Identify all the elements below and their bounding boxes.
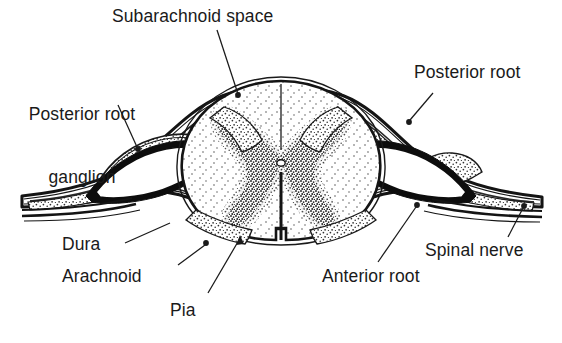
leader-posterior-root <box>406 93 433 125</box>
label-arachnoid: Arachnoid <box>62 266 142 287</box>
label-dura: Dura <box>62 234 100 255</box>
label-posterior-root-ganglion-line2: ganglion <box>8 167 156 188</box>
label-spinal-nerve: Spinal nerve <box>425 240 523 261</box>
label-anterior-root: Anterior root <box>322 266 420 287</box>
central-canal <box>277 160 285 166</box>
leader-subarachnoid-space <box>217 30 241 98</box>
label-subarachnoid-space: Subarachnoid space <box>112 6 273 27</box>
label-posterior-root: Posterior root <box>414 62 520 83</box>
spinal-cord <box>182 81 381 240</box>
label-posterior-root-ganglion: Posterior root ganglion <box>8 62 156 230</box>
spinal-cord-cross-section-figure: Subarachnoid space Posterior root gangli… <box>0 0 562 343</box>
leader-arachnoid <box>178 240 209 265</box>
label-posterior-root-ganglion-line1: Posterior root <box>8 104 156 125</box>
leader-anterior-root <box>378 202 420 262</box>
leader-pia <box>208 235 244 293</box>
label-pia: Pia <box>170 300 196 321</box>
